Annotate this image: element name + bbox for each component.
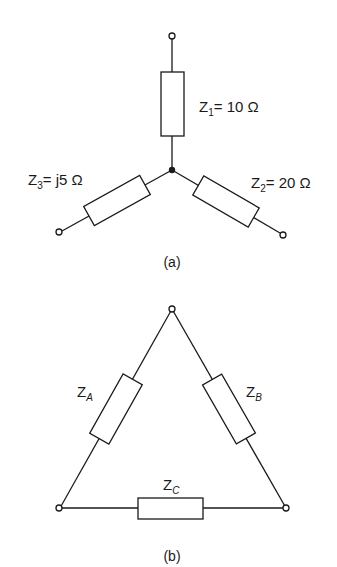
label-za: ZA	[77, 383, 93, 403]
terminal-right	[280, 232, 286, 238]
resistor-z3	[84, 175, 151, 225]
circuit-diagram: Z1= 10 Ω Z2= 20 Ω Z3= j5 Ω (a) ZA ZB ZC …	[0, 0, 337, 567]
delta-network: ZA ZB ZC (b)	[56, 306, 289, 564]
terminal-left-delta	[56, 505, 62, 511]
resistor-zc	[138, 498, 203, 519]
label-zb: ZB	[246, 383, 262, 403]
resistor-z1	[161, 72, 184, 136]
resistor-z2	[193, 176, 259, 227]
terminal-top-delta	[169, 306, 175, 312]
center-node	[169, 167, 175, 173]
label-z3: Z3= j5 Ω	[28, 171, 83, 191]
label-z1: Z1= 10 Ω	[199, 98, 259, 118]
label-zc: ZC	[163, 476, 180, 496]
star-network: Z1= 10 Ω Z2= 20 Ω Z3= j5 Ω (a)	[28, 33, 311, 270]
caption-b: (b)	[163, 548, 180, 564]
label-z2: Z2= 20 Ω	[251, 174, 311, 194]
terminal-top	[169, 33, 175, 39]
caption-a: (a)	[163, 254, 180, 270]
resistor-za	[90, 374, 143, 444]
terminal-right-delta	[283, 505, 289, 511]
terminal-left	[56, 229, 62, 235]
